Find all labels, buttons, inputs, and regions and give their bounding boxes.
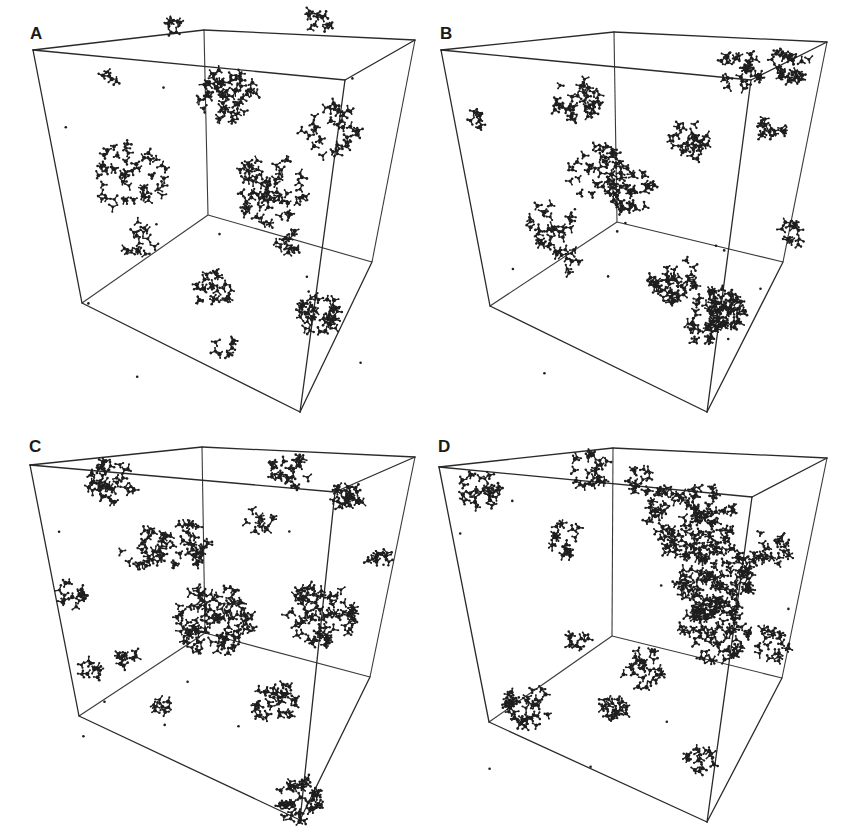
molecule [216, 600, 226, 609]
molecule [280, 455, 288, 466]
lone-atom [82, 735, 85, 738]
molecule [99, 492, 106, 502]
molecule [236, 167, 244, 174]
lone-atom [710, 613, 713, 616]
molecule [567, 93, 576, 103]
molecule [153, 558, 161, 567]
molecule [257, 203, 265, 211]
molecule [133, 165, 142, 172]
molecule [251, 213, 260, 220]
molecule [125, 149, 134, 157]
lone-atom [218, 233, 221, 236]
molecule [758, 540, 767, 548]
box-edge [613, 448, 827, 458]
molecule [254, 685, 261, 694]
box-edge [489, 722, 707, 822]
molecule [558, 552, 567, 561]
molecule [276, 786, 285, 794]
box-edge [707, 80, 751, 412]
molecule [211, 339, 221, 348]
molecule [642, 201, 650, 211]
panel-label-b: B [440, 24, 452, 43]
molecule [175, 628, 185, 635]
molecule [333, 592, 339, 600]
molecule [120, 473, 129, 482]
molecule [124, 183, 132, 191]
molecule [191, 617, 198, 624]
box-edge [205, 633, 370, 677]
molecule [570, 466, 579, 475]
molecule [677, 536, 687, 544]
molecule [172, 27, 180, 36]
lone-atom [186, 681, 189, 684]
molecule [565, 178, 574, 186]
molecule [763, 641, 772, 651]
box-edge [79, 633, 205, 716]
molecule [638, 674, 647, 682]
lone-atom [543, 372, 546, 375]
molecule [687, 565, 696, 573]
lone-atom [163, 724, 166, 727]
molecule [302, 473, 312, 482]
lone-atom [65, 126, 68, 129]
box-edge [33, 50, 82, 303]
molecule [756, 530, 764, 537]
molecule [175, 550, 183, 559]
box-edge [202, 447, 415, 457]
box-edge [441, 50, 751, 80]
molecule [238, 606, 246, 613]
molecule [237, 188, 245, 197]
molecule [471, 486, 482, 494]
molecule [473, 501, 481, 511]
lone-atom [162, 86, 165, 89]
molecule [340, 598, 347, 608]
figure-canvas: A B C D [0, 0, 844, 838]
box-edge [300, 80, 345, 412]
molecule [547, 199, 556, 207]
molecule [723, 82, 732, 91]
molecule [597, 169, 606, 178]
molecule [254, 155, 263, 163]
molecule [571, 533, 579, 543]
molecule [576, 189, 584, 198]
lone-atom [715, 244, 718, 247]
molecule [776, 224, 786, 233]
molecule-clusters-b [466, 48, 813, 375]
box-edge [617, 222, 783, 262]
lone-atom [136, 376, 139, 379]
lone-atom [723, 249, 726, 252]
molecule [112, 76, 120, 86]
box-edge [79, 716, 300, 820]
molecule [108, 203, 119, 212]
molecule [575, 523, 585, 532]
molecule [113, 151, 121, 159]
panel-d: D [438, 437, 827, 822]
molecule [532, 722, 541, 730]
molecule [346, 624, 353, 633]
molecule [573, 157, 582, 165]
box-edge [612, 448, 613, 636]
molecule [719, 618, 729, 626]
molecule [130, 486, 140, 494]
molecule [296, 126, 306, 135]
molecule [194, 606, 202, 613]
molecule [546, 238, 554, 246]
lone-atom [511, 500, 514, 503]
lone-atom [307, 290, 310, 293]
molecule [148, 172, 156, 180]
molecule [118, 661, 129, 671]
molecule [279, 680, 289, 689]
molecule [642, 682, 650, 691]
molecule [663, 265, 671, 274]
molecule [128, 654, 136, 662]
molecule [604, 457, 613, 466]
molecule [284, 189, 292, 198]
molecule [731, 594, 738, 605]
lone-atom [288, 530, 291, 533]
lone-atom [351, 77, 354, 80]
molecule [671, 499, 679, 507]
box-edge [370, 457, 415, 677]
molecule [646, 667, 656, 675]
molecule [175, 619, 184, 629]
molecule [536, 226, 546, 235]
